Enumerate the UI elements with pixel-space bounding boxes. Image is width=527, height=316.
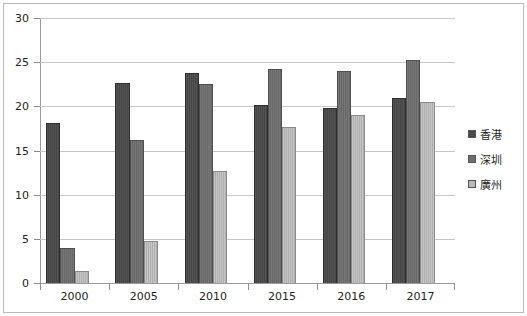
x-axis-tick-label: 2005 bbox=[109, 290, 178, 303]
x-tick-mark bbox=[454, 283, 455, 290]
bar[interactable] bbox=[46, 123, 60, 283]
chart-legend: 香港深圳廣州 bbox=[468, 126, 502, 192]
x-tick-cell bbox=[317, 283, 386, 290]
y-tick-mark-10 bbox=[34, 195, 40, 196]
bar[interactable] bbox=[199, 84, 213, 283]
bar-group bbox=[248, 18, 317, 283]
y-axis-tick-label: 15 bbox=[15, 144, 29, 157]
y-tick-mark-20 bbox=[34, 106, 40, 107]
chart-canvas: 051015202530 200020052010201520162017 香港… bbox=[0, 0, 527, 316]
bar[interactable] bbox=[268, 69, 282, 283]
legend-swatch-guangzhou bbox=[468, 180, 476, 188]
legend-swatch-shenzhen bbox=[468, 155, 476, 163]
bar-group bbox=[40, 18, 109, 283]
x-tick-cell bbox=[178, 283, 247, 290]
x-axis-labels: 200020052010201520162017 bbox=[40, 290, 455, 303]
bar[interactable] bbox=[420, 102, 434, 283]
x-axis-ticks bbox=[40, 283, 455, 290]
bar[interactable] bbox=[130, 140, 144, 283]
bar-group-bars bbox=[317, 18, 386, 283]
x-tick-mark bbox=[386, 283, 387, 290]
plot-area bbox=[40, 18, 455, 283]
legend-item-label: 香港 bbox=[480, 126, 502, 142]
legend-item[interactable]: 香港 bbox=[468, 126, 502, 142]
bar[interactable] bbox=[60, 248, 74, 283]
x-axis-tick-label: 2016 bbox=[317, 290, 386, 303]
y-axis-tick-label: 5 bbox=[22, 232, 29, 245]
x-tick-cell bbox=[386, 283, 455, 290]
bar[interactable] bbox=[185, 73, 199, 283]
x-tick-cell bbox=[109, 283, 178, 290]
x-tick-mark bbox=[40, 283, 41, 290]
x-tick-mark bbox=[109, 283, 110, 290]
bar[interactable] bbox=[323, 108, 337, 283]
bar[interactable] bbox=[406, 60, 420, 283]
legend-swatch-hongkong bbox=[468, 130, 476, 138]
y-tick-mark-25 bbox=[34, 62, 40, 63]
y-tick-mark-5 bbox=[34, 239, 40, 240]
x-axis-tick-label: 2010 bbox=[178, 290, 247, 303]
y-axis-tick-label: 20 bbox=[15, 100, 29, 113]
bar-group bbox=[109, 18, 178, 283]
bar[interactable] bbox=[392, 98, 406, 283]
bar[interactable] bbox=[115, 83, 129, 283]
x-tick-mark bbox=[317, 283, 318, 290]
bar[interactable] bbox=[213, 171, 227, 283]
legend-item[interactable]: 深圳 bbox=[468, 151, 502, 167]
legend-item-label: 深圳 bbox=[480, 151, 502, 167]
bar-group bbox=[178, 18, 247, 283]
y-axis-tick-label: 10 bbox=[15, 188, 29, 201]
x-tick-mark bbox=[248, 283, 249, 290]
y-tick-mark-15 bbox=[34, 151, 40, 152]
bar[interactable] bbox=[254, 105, 268, 283]
y-tick-mark-30 bbox=[34, 18, 40, 19]
legend-item[interactable]: 廣州 bbox=[468, 176, 502, 192]
bar-group bbox=[317, 18, 386, 283]
x-tick-cell bbox=[40, 283, 109, 290]
bar[interactable] bbox=[351, 115, 365, 283]
bar[interactable] bbox=[337, 71, 351, 283]
bar-group-bars bbox=[248, 18, 317, 283]
bar-group-bars bbox=[109, 18, 178, 283]
legend-item-label: 廣州 bbox=[480, 176, 502, 192]
bar-group-bars bbox=[178, 18, 247, 283]
bar-group bbox=[386, 18, 455, 283]
bar-groups bbox=[40, 18, 455, 283]
y-axis-tick-label: 25 bbox=[15, 56, 29, 69]
bar[interactable] bbox=[282, 127, 296, 283]
bar-group-bars bbox=[40, 18, 109, 283]
y-axis-tick-label: 30 bbox=[15, 12, 29, 25]
bar[interactable] bbox=[75, 271, 89, 283]
x-tick-mark bbox=[178, 283, 179, 290]
y-axis-tick-label: 0 bbox=[22, 277, 29, 290]
bar[interactable] bbox=[144, 241, 158, 283]
x-axis-tick-label: 2017 bbox=[386, 290, 455, 303]
x-axis-tick-label: 2000 bbox=[40, 290, 109, 303]
x-axis-tick-label: 2015 bbox=[248, 290, 317, 303]
bar-group-bars bbox=[386, 18, 455, 283]
x-tick-cell bbox=[248, 283, 317, 290]
